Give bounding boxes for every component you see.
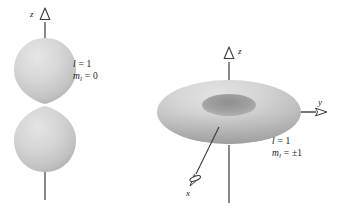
- dumbbell-lower-lobe: [14, 106, 76, 172]
- dumbbell-upper-lobe: [14, 38, 76, 104]
- right-x-axis-label: x: [186, 188, 190, 200]
- right-quantum-numbers: l = 1 ml = ±1: [272, 135, 302, 161]
- right-m-subscript: l: [279, 152, 281, 160]
- left-l-row: l = 1: [73, 58, 98, 70]
- right-l-symbol: l: [272, 136, 275, 146]
- right-m-symbol: m: [272, 148, 279, 158]
- right-z-axis-label: z: [238, 46, 242, 58]
- left-z-axis-label: z: [30, 9, 34, 21]
- left-l-equals: =: [78, 59, 84, 69]
- figure-graphics: [0, 0, 340, 208]
- right-y-axis-label: y: [318, 97, 322, 109]
- left-m-subscript: l: [80, 75, 82, 83]
- left-m-row: ml = 0: [73, 70, 98, 83]
- right-l-equals: =: [277, 136, 283, 146]
- right-m-row: ml = ±1: [272, 147, 302, 160]
- left-m-symbol: m: [73, 71, 80, 81]
- left-m-equals: =: [85, 71, 91, 81]
- right-l-row: l = 1: [272, 135, 302, 147]
- orbital-angular-momentum-figure: z l = 1 ml = 0 z y x l = 1 ml = ±1: [0, 0, 340, 208]
- left-l-value: 1: [87, 59, 92, 69]
- left-quantum-numbers: l = 1 ml = 0: [73, 58, 98, 84]
- right-l-value: 1: [286, 136, 291, 146]
- right-m-equals: =: [284, 148, 290, 158]
- right-m-value: ±1: [292, 148, 302, 158]
- left-l-symbol: l: [73, 59, 76, 69]
- left-m-value: 0: [93, 71, 98, 81]
